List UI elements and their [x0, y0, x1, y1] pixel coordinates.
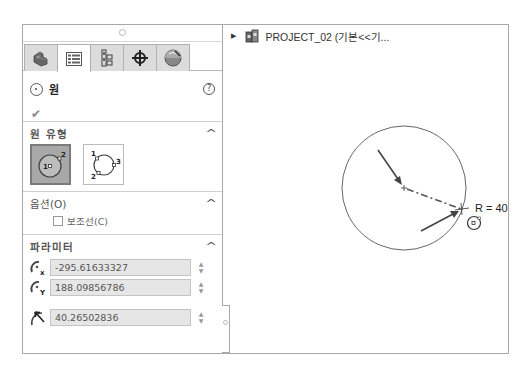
parameters-title: 파라미터 — [30, 239, 74, 254]
parameters-header[interactable]: 파라미터 ^ — [23, 235, 222, 257]
ok-checkmark-button[interactable]: ✔ — [31, 107, 41, 121]
radius-spinner[interactable]: ▲ ▼ — [197, 310, 205, 324]
annotation-arrow-center — [378, 150, 402, 185]
spin-up-icon[interactable]: ▲ — [199, 260, 204, 267]
crosshair-icon — [131, 49, 149, 67]
spin-down-icon[interactable]: ▼ — [199, 317, 204, 324]
collapse-caret-icon[interactable]: ^ — [205, 128, 217, 139]
options-section: 옵션(O) ^ 보조선(C) — [23, 191, 222, 234]
solidworks-window: 원 ? ✔ 원 유형 ^ 1 2 — [22, 24, 509, 354]
radius-line — [407, 189, 461, 209]
property-list-icon — [65, 51, 83, 67]
spin-up-icon[interactable]: ▲ — [199, 280, 204, 287]
construction-option: 보조선(C) — [23, 214, 222, 234]
spin-down-icon[interactable]: ▼ — [199, 287, 204, 294]
appearance-sphere-icon — [163, 48, 183, 68]
tab-feature-manager[interactable] — [24, 44, 58, 71]
spin-up-icon[interactable]: ▲ — [199, 310, 204, 317]
property-manager-panel: 원 ? ✔ 원 유형 ^ 1 2 — [23, 25, 223, 353]
parameters-section: 파라미터 ^ x ▲ ▼ Y — [23, 234, 222, 327]
options-header[interactable]: 옵션(O) ^ — [23, 192, 222, 214]
circle-type-section: 원 유형 ^ 1 2 1 — [23, 121, 222, 191]
circle-type-title: 원 유형 — [30, 126, 68, 141]
tab-property-manager[interactable] — [57, 44, 91, 72]
collapse-caret-icon[interactable]: ^ — [205, 241, 217, 252]
center-x-icon: x — [29, 258, 49, 276]
center-x-spinner[interactable]: ▲ ▼ — [197, 260, 205, 274]
svg-text:3: 3 — [116, 158, 121, 166]
circle-type-options: 1 2 1 3 2 — [23, 144, 222, 191]
radius-input[interactable] — [50, 309, 191, 326]
center-y-row: Y ▲ ▼ — [23, 277, 222, 297]
perimeter-circle-icon: 1 3 2 — [86, 147, 122, 183]
collapse-caret-icon[interactable]: ^ — [205, 198, 217, 209]
help-button[interactable]: ? — [203, 83, 215, 95]
svg-text:2: 2 — [61, 151, 66, 159]
svg-text:Y: Y — [39, 289, 46, 296]
circle-feature-icon — [30, 83, 43, 96]
radius-row: ▲ ▼ — [23, 307, 222, 327]
svg-text:1: 1 — [91, 150, 96, 158]
tab-configuration-manager[interactable] — [90, 44, 124, 71]
center-circle-button[interactable]: 1 2 — [30, 144, 71, 185]
feature-title: 원 — [49, 81, 59, 97]
manager-tabs — [23, 44, 222, 71]
svg-text:x: x — [40, 269, 45, 276]
construction-checkbox[interactable] — [53, 216, 63, 226]
center-x-row: x ▲ ▼ — [23, 257, 222, 277]
perimeter-circle-button[interactable]: 1 3 2 — [83, 144, 124, 185]
panel-grip-icon[interactable] — [119, 29, 126, 36]
configuration-icon — [98, 49, 116, 67]
center-point-icon[interactable] — [401, 185, 407, 191]
part-icon — [31, 49, 51, 67]
feature-title-row: 원 ? — [23, 71, 222, 99]
annotation-arrow-perimeter — [421, 211, 459, 231]
options-title: 옵션(O) — [30, 196, 66, 211]
spin-down-icon[interactable]: ▼ — [199, 267, 204, 274]
center-y-input[interactable] — [50, 279, 191, 296]
graphics-area[interactable]: ▶ PROJECT_02 (기본<<기... — [223, 25, 508, 353]
circle-type-header[interactable]: 원 유형 ^ — [23, 122, 222, 144]
ok-row: ✔ — [23, 99, 222, 121]
panel-header — [23, 25, 222, 42]
center-x-input[interactable] — [50, 259, 191, 276]
radius-dimension-label: R = 40.27 — [475, 202, 508, 214]
center-y-spinner[interactable]: ▲ ▼ — [197, 280, 205, 294]
sketch-canvas[interactable]: R = 40.27 — [223, 25, 508, 353]
svg-text:1: 1 — [43, 163, 48, 171]
tab-dimxpert-manager[interactable] — [123, 44, 157, 71]
construction-label[interactable]: 보조선(C) — [67, 214, 108, 228]
center-y-icon: Y — [29, 278, 49, 296]
tab-display-manager[interactable] — [156, 44, 190, 71]
svg-text:2: 2 — [91, 173, 96, 181]
coincident-cursor-icon — [468, 217, 481, 230]
radius-icon — [29, 308, 49, 326]
center-circle-icon: 1 2 — [33, 147, 69, 183]
